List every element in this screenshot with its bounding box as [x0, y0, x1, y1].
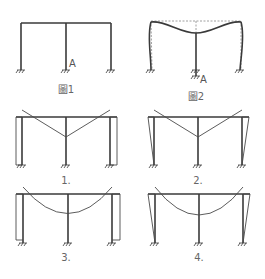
option-1-label: 1. — [61, 175, 71, 186]
right-column-moment-rect — [112, 194, 120, 240]
fixed-support-icon — [149, 165, 158, 168]
figure-1-frame: A 圖1 — [16, 23, 115, 95]
fixed-support-icon — [193, 165, 202, 168]
option-4-label: 4. — [194, 252, 204, 263]
figure-2-caption: 圖2 — [188, 91, 204, 102]
fixed-support-icon — [194, 243, 203, 246]
option-3-diagram[interactable]: 3. — [16, 187, 120, 263]
figure-2-frame: A 圖2 — [146, 21, 244, 102]
fixed-support-icon — [106, 70, 115, 73]
fixed-support-icon — [18, 243, 27, 246]
fixed-support-icon — [107, 243, 116, 246]
option-3-label: 3. — [61, 252, 71, 263]
fixed-support-icon — [63, 243, 72, 246]
deflected-beam — [151, 22, 241, 33]
left-column-moment-taper — [148, 194, 155, 243]
option-2-label: 2. — [193, 175, 203, 186]
option-4-diagram[interactable]: 4. — [148, 187, 250, 263]
fixed-support-icon — [238, 243, 247, 246]
structural-diagram-canvas: A 圖1 A 圖2 1. — [0, 0, 265, 279]
option-1-diagram[interactable]: 1. — [16, 110, 117, 186]
point-a-label: A — [69, 58, 76, 69]
left-column-moment-rect — [16, 194, 23, 240]
right-column-moment-rect — [110, 117, 117, 165]
right-column-moment-taper — [243, 194, 250, 243]
figure-1-caption: 圖1 — [58, 84, 74, 95]
left-column-moment-rect — [16, 117, 22, 165]
fixed-support-icon — [235, 70, 244, 73]
fixed-support-icon — [17, 165, 26, 168]
fixed-support-icon — [237, 165, 246, 168]
fixed-support-icon — [105, 165, 114, 168]
right-column-moment-taper — [242, 117, 249, 165]
fixed-support-icon — [146, 70, 155, 73]
fixed-support-icon — [16, 70, 25, 73]
deflected-left-column — [149, 22, 151, 70]
fixed-support-icon — [61, 70, 70, 73]
settled-support-icon — [191, 76, 200, 79]
fixed-support-icon — [150, 243, 159, 246]
left-column-moment-taper — [148, 117, 154, 165]
option-2-diagram[interactable]: 2. — [148, 110, 249, 186]
fixed-support-icon — [61, 165, 70, 168]
point-a-label: A — [200, 74, 207, 85]
